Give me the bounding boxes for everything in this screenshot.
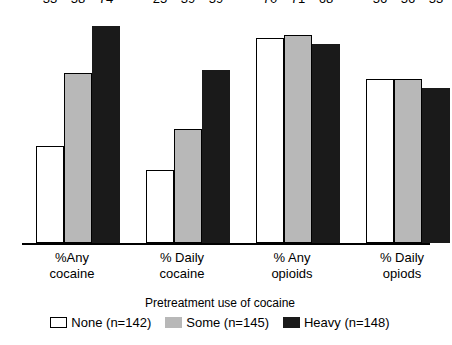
legend: Pretreatment use of cocaine None (n=142)… xyxy=(0,296,440,330)
bar-value-label: 25 xyxy=(153,0,167,6)
legend-item-none[interactable]: None (n=142) xyxy=(50,315,151,330)
legend-swatch-icon xyxy=(50,317,67,328)
bar-any-cocaine-none[interactable] xyxy=(36,146,64,243)
x-axis-label-any-cocaine: %Any cocaine xyxy=(22,250,122,282)
legend-item-heavy[interactable]: Heavy (n=148) xyxy=(283,315,390,330)
bar-slot-none: 25 xyxy=(146,8,174,243)
x-axis-label-any-opioids: % Any opioids xyxy=(242,250,342,282)
x-axis-baseline xyxy=(22,243,430,245)
bar-group-any-cocaine: 33 58 74 xyxy=(36,8,120,243)
bar-daily-cocaine-some[interactable] xyxy=(174,129,202,243)
bar-value-label: 59 xyxy=(209,0,223,6)
bar-slot-heavy: 53 xyxy=(422,8,450,243)
bar-value-label: 70 xyxy=(263,0,277,6)
legend-items: None (n=142) Some (n=145) Heavy (n=148) xyxy=(0,315,440,330)
legend-title: Pretreatment use of cocaine xyxy=(0,296,440,311)
bar-value-label: 33 xyxy=(43,0,57,6)
bar-daily-cocaine-heavy[interactable] xyxy=(202,70,230,243)
legend-item-label: Heavy (n=148) xyxy=(304,315,390,330)
bar-value-label: 68 xyxy=(319,0,333,6)
bar-group-any-opioids: 70 71 68 xyxy=(256,8,340,243)
bar-slot-some: 71 xyxy=(284,8,312,243)
bar-daily-opiods-some[interactable] xyxy=(394,79,422,243)
legend-swatch-icon xyxy=(283,317,300,328)
bar-value-label: 58 xyxy=(71,0,85,6)
bar-value-label: 53 xyxy=(429,0,443,6)
bar-slot-heavy: 59 xyxy=(202,8,230,243)
bar-value-label: 71 xyxy=(291,0,305,6)
bar-any-cocaine-some[interactable] xyxy=(64,73,92,243)
bar-daily-cocaine-none[interactable] xyxy=(146,170,174,243)
legend-item-some[interactable]: Some (n=145) xyxy=(165,315,269,330)
bar-slot-heavy: 68 xyxy=(312,8,340,243)
bar-slot-some: 56 xyxy=(394,8,422,243)
bar-any-cocaine-heavy[interactable] xyxy=(92,26,120,243)
bar-slot-some: 39 xyxy=(174,8,202,243)
bar-slot-heavy: 74 xyxy=(92,8,120,243)
x-axis-label-daily-opiods: % Daily opiods xyxy=(352,250,452,282)
bar-group-daily-opiods: 56 56 53 xyxy=(366,8,450,243)
bar-daily-opiods-heavy[interactable] xyxy=(422,88,450,243)
bar-value-label: 39 xyxy=(181,0,195,6)
plot-area: 33 58 74 25 39 xyxy=(22,8,430,243)
bar-any-opioids-some[interactable] xyxy=(284,35,312,243)
bar-slot-none: 70 xyxy=(256,8,284,243)
bar-slot-none: 33 xyxy=(36,8,64,243)
bar-any-opioids-heavy[interactable] xyxy=(312,44,340,243)
x-axis-label-daily-cocaine: % Daily cocaine xyxy=(132,250,232,282)
bar-value-label: 74 xyxy=(99,0,113,6)
bar-daily-opiods-none[interactable] xyxy=(366,79,394,243)
legend-swatch-icon xyxy=(165,317,182,328)
bar-any-opioids-none[interactable] xyxy=(256,38,284,243)
legend-item-label: None (n=142) xyxy=(71,315,151,330)
bar-value-label: 56 xyxy=(401,0,415,6)
bar-group-daily-cocaine: 25 39 59 xyxy=(146,8,230,243)
bar-slot-none: 56 xyxy=(366,8,394,243)
bar-slot-some: 58 xyxy=(64,8,92,243)
legend-item-label: Some (n=145) xyxy=(186,315,269,330)
bar-value-label: 56 xyxy=(373,0,387,6)
